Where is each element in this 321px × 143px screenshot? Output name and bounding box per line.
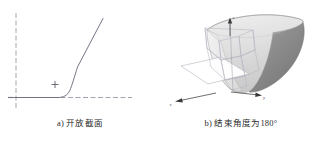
caption-panel-a: a) 开放截面 bbox=[0, 116, 160, 128]
figure-container: a) 开放截面 bbox=[0, 0, 321, 143]
figure-panel-a: a) 开放截面 bbox=[0, 0, 160, 143]
open-section-plot bbox=[0, 0, 160, 115]
y-axis-label: y bbox=[263, 95, 266, 100]
revolved-surface-view: z x y bbox=[161, 0, 321, 115]
profile-cross-marker bbox=[52, 81, 59, 88]
z-axis-label: z bbox=[233, 15, 235, 20]
profile-curve-rising-segment bbox=[58, 19, 103, 98]
y-axis-arrowhead bbox=[255, 93, 262, 97]
figure-panel-b: z x y b) 结束角度为180° bbox=[161, 0, 321, 143]
x-axis-line bbox=[178, 93, 216, 101]
x-axis-label: x bbox=[170, 102, 173, 107]
caption-panel-b: b) 结束角度为180° bbox=[161, 116, 321, 128]
x-axis-arrowhead bbox=[175, 98, 183, 102]
